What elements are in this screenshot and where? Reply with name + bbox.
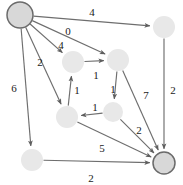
graph-node-mid_ul[interactable] bbox=[62, 51, 84, 73]
graph-node-source[interactable] bbox=[7, 2, 33, 28]
edge-source-to-mid_ll bbox=[26, 27, 61, 104]
edge-weight-label: 0 bbox=[65, 26, 71, 37]
edge-botleft-to-sink bbox=[43, 160, 149, 162]
graph-node-botleft[interactable] bbox=[21, 149, 43, 171]
edge-mid_lr-to-mid_ll bbox=[81, 113, 102, 115]
edge-weight-label: 5 bbox=[99, 143, 105, 154]
edge-weight-label: 1 bbox=[110, 84, 116, 95]
edge-weight-label: 4 bbox=[58, 40, 64, 51]
edge-weight-label: 2 bbox=[170, 85, 176, 96]
edge-mid_ul-to-mid_ur bbox=[84, 61, 103, 62]
graph-node-mid_ll[interactable] bbox=[56, 106, 78, 128]
edge-weight-label: 6 bbox=[11, 83, 17, 94]
graph-canvas bbox=[0, 0, 183, 185]
edge-mid_ur-to-sink bbox=[123, 71, 159, 151]
graph-node-mid_ur[interactable] bbox=[107, 49, 129, 71]
graph-node-sink[interactable] bbox=[153, 152, 175, 174]
graph-figure: 40426211117252 bbox=[0, 0, 183, 185]
edge-weight-label: 4 bbox=[89, 7, 95, 18]
edge-weight-label: 2 bbox=[136, 125, 142, 136]
edge-source-to-botleft bbox=[21, 28, 31, 145]
edge-weight-label: 1 bbox=[92, 102, 98, 113]
edge-weight-label: 2 bbox=[37, 57, 43, 68]
graph-node-mid_lr[interactable] bbox=[103, 102, 123, 122]
graph-node-topright[interactable] bbox=[153, 16, 175, 38]
edge-weight-label: 1 bbox=[93, 70, 99, 81]
edge-weight-label: 7 bbox=[143, 90, 149, 101]
edge-mid_ll-to-mid_ul bbox=[68, 76, 71, 105]
edge-weight-label: 1 bbox=[74, 85, 80, 96]
edge-weight-label: 2 bbox=[88, 173, 94, 184]
edge-source-to-topright bbox=[33, 16, 149, 26]
